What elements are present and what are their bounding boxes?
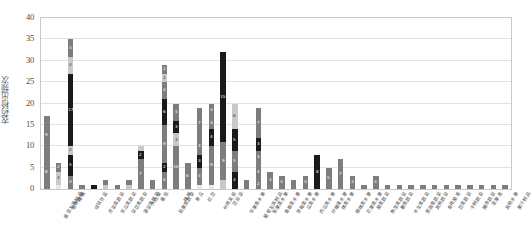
bar[interactable] bbox=[432, 185, 437, 189]
bar-segment: 4 bbox=[267, 172, 272, 189]
bar-segment: 3 bbox=[303, 176, 308, 189]
bar[interactable] bbox=[479, 185, 484, 189]
segment-value-label: 3 bbox=[175, 125, 178, 129]
bar-segment: 3 bbox=[256, 138, 261, 151]
bar[interactable] bbox=[126, 180, 131, 189]
segment-value-label: 4 bbox=[175, 110, 178, 114]
bar-segment: 7 bbox=[338, 159, 343, 189]
bar-segment: 4 bbox=[197, 168, 202, 185]
bar-segment: 3 bbox=[197, 155, 202, 168]
bar-segment bbox=[220, 180, 225, 189]
x-tick-label: 结球甘蓝 bbox=[94, 191, 109, 211]
bar[interactable]: 89 bbox=[44, 116, 49, 189]
segment-value-label: 7 bbox=[339, 172, 342, 176]
bar[interactable]: 32 bbox=[56, 163, 61, 189]
bar[interactable] bbox=[408, 185, 413, 189]
bar[interactable] bbox=[491, 185, 496, 189]
segment-value-label: 3 bbox=[375, 181, 378, 185]
segment-value-label: 6 bbox=[187, 174, 190, 178]
bar[interactable]: 4347 bbox=[197, 108, 202, 189]
bar[interactable] bbox=[444, 185, 449, 189]
segment-value-label: 4 bbox=[163, 89, 166, 93]
bar-segment bbox=[420, 185, 425, 189]
bar-segment: 5 bbox=[232, 129, 237, 150]
segment-value-label: 5 bbox=[328, 176, 331, 180]
bar[interactable] bbox=[291, 180, 296, 189]
bar-segment bbox=[385, 185, 390, 189]
bar[interactable]: 5 bbox=[326, 168, 331, 189]
bar[interactable]: 4296422 bbox=[162, 65, 167, 189]
bar[interactable] bbox=[150, 180, 155, 189]
bar-segment: 4 bbox=[256, 163, 261, 180]
bar-segment bbox=[291, 180, 296, 189]
bar[interactable]: 3521744 bbox=[68, 39, 73, 189]
bar[interactable] bbox=[91, 185, 96, 189]
bar[interactable]: 4 bbox=[267, 172, 272, 189]
bars-container: 8932352174472429642210334643479433915455… bbox=[41, 18, 511, 189]
bar-segment: 4 bbox=[68, 39, 73, 56]
bar[interactable] bbox=[103, 180, 108, 189]
bar[interactable]: 3 bbox=[303, 176, 308, 189]
bar-segment bbox=[126, 185, 131, 189]
bar[interactable] bbox=[385, 185, 390, 189]
bar[interactable]: 8 bbox=[314, 155, 319, 189]
bar-segment: 5 bbox=[232, 151, 237, 172]
segment-value-label: 2 bbox=[163, 67, 166, 71]
bar[interactable]: 9433 bbox=[209, 104, 214, 190]
bar-segment: 9 bbox=[209, 146, 214, 184]
segment-value-label: 17 bbox=[68, 108, 73, 112]
bar[interactable] bbox=[455, 185, 460, 189]
bar-segment bbox=[115, 185, 120, 189]
bar-segment bbox=[91, 185, 96, 189]
y-tick-label: 10 bbox=[26, 140, 34, 150]
segment-value-label: 3 bbox=[257, 155, 260, 159]
bar[interactable] bbox=[420, 185, 425, 189]
segment-value-label: 10 bbox=[173, 166, 178, 170]
bar[interactable]: 72 bbox=[138, 146, 143, 189]
x-tick-label: 豇豆 bbox=[206, 191, 216, 202]
bar-segment: 2 bbox=[162, 163, 167, 172]
bar[interactable] bbox=[467, 185, 472, 189]
plot-area: 8932352174472429642210334643479433915455… bbox=[40, 17, 512, 190]
segment-value-label: 4 bbox=[69, 46, 72, 50]
bar-segment: 3 bbox=[173, 133, 178, 146]
bar[interactable] bbox=[397, 185, 402, 189]
bar[interactable]: 3 bbox=[350, 176, 355, 189]
segment-value-label: 5 bbox=[69, 163, 72, 167]
bar-segment bbox=[455, 185, 460, 189]
bar-segment: 3 bbox=[209, 104, 214, 117]
bar[interactable]: 7 bbox=[338, 159, 343, 189]
bar-segment: 4 bbox=[197, 138, 202, 155]
bar-segment: 8 bbox=[314, 155, 319, 189]
bar[interactable] bbox=[115, 185, 120, 189]
bar[interactable]: 3 bbox=[373, 176, 378, 189]
bar-segment: 2 bbox=[162, 65, 167, 74]
bar-segment: 6 bbox=[232, 104, 237, 130]
segment-value-label: 4 bbox=[69, 63, 72, 67]
bar[interactable]: 10334 bbox=[173, 104, 178, 190]
bar[interactable] bbox=[79, 185, 84, 189]
segment-value-label: 6 bbox=[163, 110, 166, 114]
y-tick-label: 40 bbox=[26, 12, 34, 22]
bar[interactable] bbox=[244, 180, 249, 189]
segment-value-label: 4 bbox=[234, 178, 237, 182]
bar-segment: 3 bbox=[173, 121, 178, 134]
bar-segment: 15 bbox=[220, 52, 225, 142]
bar[interactable]: 6 bbox=[185, 163, 190, 189]
bar[interactable] bbox=[361, 185, 366, 189]
segment-value-label: 3 bbox=[210, 108, 213, 112]
bar[interactable] bbox=[502, 185, 507, 189]
bar[interactable]: 915 bbox=[220, 52, 225, 189]
bar-segment: 2 bbox=[68, 146, 73, 155]
segment-value-label: 15 bbox=[220, 95, 225, 99]
bar-segment: 3 bbox=[209, 116, 214, 129]
bar[interactable]: 3 bbox=[279, 176, 284, 189]
bar-segment: 7 bbox=[197, 108, 202, 138]
segment-value-label: 4 bbox=[269, 178, 272, 182]
bar-segment: 9 bbox=[44, 116, 49, 154]
bar-segment: 2 bbox=[138, 151, 143, 160]
segment-value-label: 4 bbox=[198, 174, 201, 178]
bar[interactable]: 24337 bbox=[256, 108, 261, 189]
bar[interactable]: 4556 bbox=[232, 104, 237, 190]
